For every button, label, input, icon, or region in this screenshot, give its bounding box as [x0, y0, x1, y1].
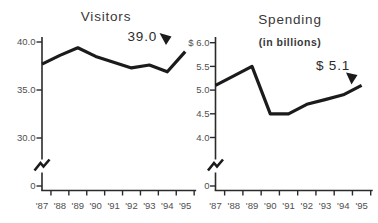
x-axis-label: '94 — [337, 200, 349, 211]
y-tick-label: 4.0 — [196, 132, 209, 143]
visitors-endpoint-annotation: 39.0 — [107, 29, 157, 44]
dual-line-chart-figure: 40.035.030.00'87'88'89'90'91'92'93'94'95… — [0, 0, 378, 223]
x-axis-label: '88 — [54, 200, 66, 211]
y-zero-label: 0 — [204, 180, 209, 191]
x-axis-label: '89 — [246, 200, 258, 211]
y-tick-label: 5.0 — [196, 84, 209, 95]
y-tick-label: 35.0 — [17, 84, 36, 95]
x-axis-label: '90 — [264, 200, 276, 211]
spending-endpoint-annotation: $ 5.1 — [300, 58, 350, 73]
visitors-line — [42, 48, 185, 72]
x-axis-label: '89 — [72, 200, 84, 211]
x-axis-label: '94 — [161, 200, 173, 211]
spending-line — [216, 66, 362, 113]
x-axis-label: '91 — [107, 200, 119, 211]
visitors-chart-title: Visitors — [26, 9, 186, 24]
y-zero-label: 0 — [30, 180, 35, 191]
x-axis-label: '95 — [355, 200, 367, 211]
y-tick-label: 40.0 — [17, 36, 36, 47]
y-tick-label: 30.0 — [17, 132, 36, 143]
y-tick-label: $ 6.0 — [188, 37, 209, 48]
annotation-arrow-icon — [160, 33, 172, 45]
annotation-arrow-icon — [346, 73, 358, 85]
x-axis-label: '95 — [179, 200, 191, 211]
x-axis-label: '87 — [36, 200, 48, 211]
x-axis-label: '93 — [143, 200, 155, 211]
x-axis-label: '92 — [125, 200, 137, 211]
spending-chart-subtitle: (in billions) — [210, 36, 370, 48]
x-axis-label: '93 — [319, 200, 331, 211]
x-axis-label: '87 — [209, 200, 221, 211]
y-tick-label: 5.5 — [196, 61, 209, 72]
spending-chart-title: Spending — [210, 12, 370, 27]
x-axis-label: '88 — [228, 200, 240, 211]
charts-canvas: 40.035.030.00'87'88'89'90'91'92'93'94'95… — [0, 0, 378, 223]
x-axis-label: '90 — [90, 200, 102, 211]
x-axis-label: '92 — [301, 200, 313, 211]
x-axis-label: '91 — [282, 200, 294, 211]
y-tick-label: 4.5 — [196, 108, 209, 119]
